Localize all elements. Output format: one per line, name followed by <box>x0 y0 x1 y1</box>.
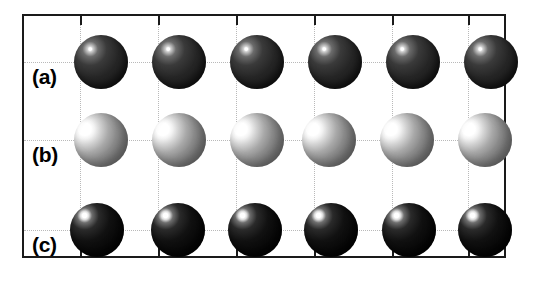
axis-tick-top <box>468 16 470 25</box>
atom-sphere-row-a <box>230 35 284 89</box>
atom-sphere-row-b <box>302 113 356 167</box>
axis-tick-top <box>236 16 238 25</box>
axis-tick-top <box>80 16 82 25</box>
atom-sphere-row-c <box>70 203 124 257</box>
atom-sphere-row-a <box>152 35 206 89</box>
atom-sphere-row-c <box>151 203 205 257</box>
atom-sphere-row-a <box>464 35 518 89</box>
atom-sphere-row-b <box>152 113 206 167</box>
atom-sphere-row-b <box>74 113 128 167</box>
axis-tick-top <box>158 16 160 25</box>
atom-sphere-row-a <box>74 35 128 89</box>
atom-sphere-row-c <box>228 203 282 257</box>
row-label-b: (b) <box>32 144 58 165</box>
figure-root: (a) (b) (c) <box>0 0 535 287</box>
atom-sphere-row-c <box>304 203 358 257</box>
atom-sphere-row-b <box>458 113 512 167</box>
atom-sphere-row-a <box>386 35 440 89</box>
figure-panel: (a) (b) (c) <box>22 14 506 258</box>
axis-tick-top <box>314 16 316 25</box>
atom-sphere-row-a <box>308 35 362 89</box>
atom-sphere-row-b <box>230 113 284 167</box>
atom-sphere-row-c <box>382 203 436 257</box>
atom-sphere-row-b <box>380 113 434 167</box>
row-label-c: (c) <box>32 234 57 255</box>
axis-tick-top <box>392 16 394 25</box>
atom-sphere-row-c <box>458 203 512 257</box>
row-label-a: (a) <box>32 66 57 87</box>
